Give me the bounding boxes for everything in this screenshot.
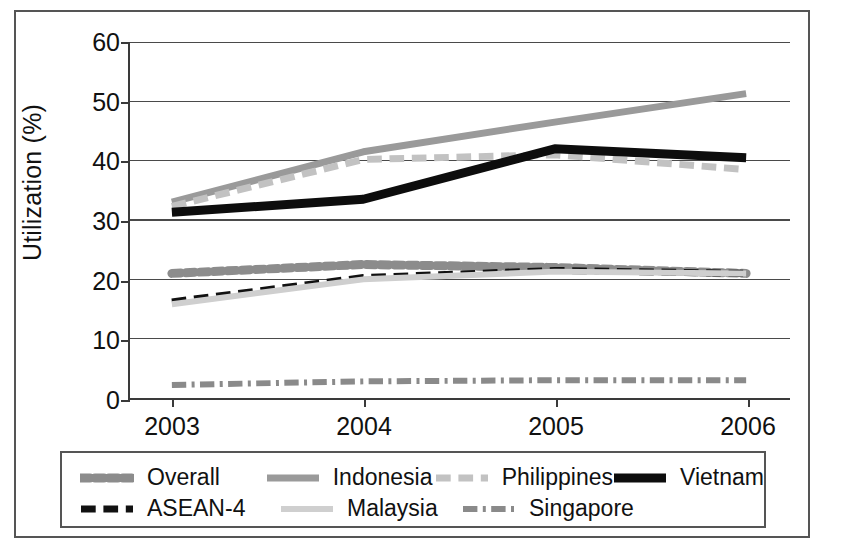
line-chart: Utilization (%) 010203040506020032004200… (0, 0, 843, 440)
y-tick-label: 30 (92, 209, 120, 234)
series-line-indonesia (172, 94, 746, 203)
legend-label: Philippines (502, 466, 613, 489)
legend-label: Vietnam (680, 466, 764, 489)
y-tick-label: 0 (106, 388, 120, 413)
legend-item-malaysia[interactable]: Malaysia (280, 497, 462, 520)
legend-item-philippines[interactable]: Philippines (435, 466, 613, 489)
legend-item-overall[interactable]: Overall (80, 466, 266, 489)
legend-swatch-philippines-icon (435, 471, 489, 485)
x-tick-mark (748, 398, 750, 407)
legend-item-asean-4[interactable]: ASEAN-4 (80, 497, 280, 520)
y-tick-mark (121, 400, 130, 402)
x-tick-label: 2004 (336, 412, 392, 441)
legend-label: Indonesia (333, 466, 433, 489)
legend-label: ASEAN-4 (147, 497, 245, 520)
x-tick-mark (364, 398, 366, 407)
y-tick-label: 10 (92, 328, 120, 353)
legend-label: Overall (147, 466, 220, 489)
legend-item-singapore[interactable]: Singapore (462, 497, 654, 520)
series-line-malaysia (172, 272, 746, 305)
y-tick-mark (121, 102, 130, 104)
x-tick-label: 2006 (720, 412, 776, 441)
series-line-singapore (172, 380, 746, 385)
legend-label: Singapore (529, 497, 634, 520)
plot-svg (130, 42, 790, 398)
legend-swatch-indonesia-icon (266, 471, 320, 485)
legend-swatch-malaysia-icon (280, 502, 334, 516)
y-tick-mark (121, 221, 130, 223)
y-tick-label: 60 (92, 30, 120, 55)
legend-swatch-vietnam-icon (613, 471, 667, 485)
y-tick-mark (121, 340, 130, 342)
legend-item-vietnam[interactable]: Vietnam (613, 466, 764, 489)
legend-row: ASEAN-4MalaysiaSingapore (62, 493, 764, 524)
y-tick-mark (121, 42, 130, 44)
legend-swatch-singapore-icon (462, 502, 516, 516)
legend-row: OverallIndonesiaPhilippinesVietnam (62, 462, 764, 493)
legend-swatch-asean-4-icon (80, 502, 134, 516)
y-tick-label: 40 (92, 149, 120, 174)
y-tick-mark (121, 161, 130, 163)
y-tick-label: 50 (92, 89, 120, 114)
chart-legend: OverallIndonesiaPhilippinesVietnamASEAN-… (60, 451, 766, 528)
x-tick-label: 2003 (144, 412, 200, 441)
x-tick-label: 2005 (528, 412, 584, 441)
legend-label: Malaysia (347, 497, 438, 520)
y-axis-title: Utilization (%) (18, 33, 47, 333)
x-tick-mark (172, 398, 174, 407)
legend-swatch-overall-icon (80, 471, 134, 485)
x-tick-mark (556, 398, 558, 407)
y-tick-mark (121, 281, 130, 283)
y-tick-label: 20 (92, 268, 120, 293)
legend-item-indonesia[interactable]: Indonesia (266, 466, 435, 489)
plot-area: 01020304050602003200420052006 (128, 42, 790, 400)
figure-root: Utilization (%) 010203040506020032004200… (0, 0, 843, 551)
